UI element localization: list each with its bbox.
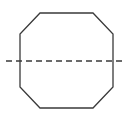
figure-canvas xyxy=(0,0,130,122)
geometry-figure xyxy=(0,0,130,122)
